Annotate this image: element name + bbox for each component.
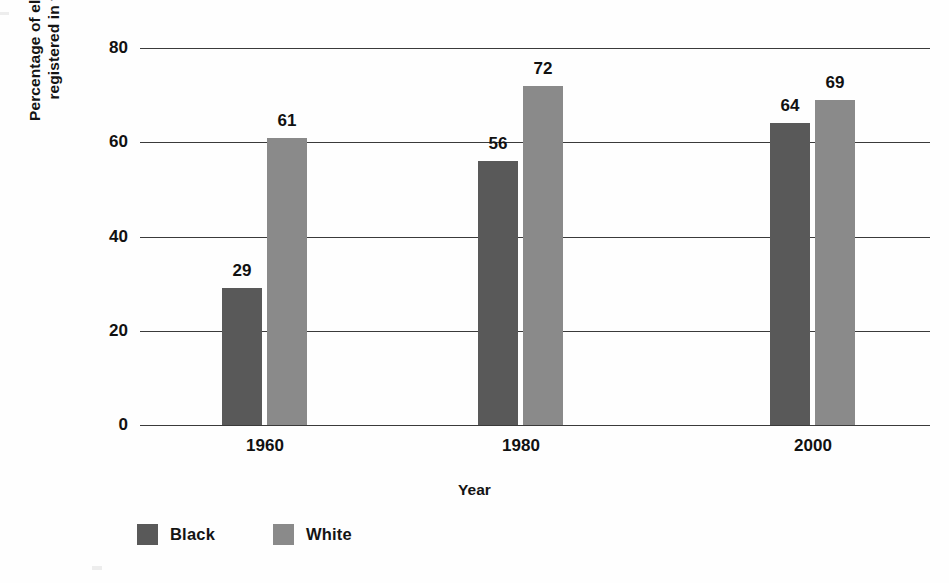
legend-label-black: Black	[170, 525, 215, 544]
scan-artifact	[0, 12, 9, 15]
y-tick-60: 60	[84, 132, 128, 152]
bar-value-label: 69	[826, 73, 845, 93]
x-tick-1960: 1960	[246, 436, 284, 456]
x-axis-title: Year	[0, 481, 949, 499]
bar-white-2000[interactable]: 69	[815, 100, 855, 425]
y-tick-0: 0	[84, 415, 128, 435]
bar-value-label: 29	[233, 261, 252, 281]
bar-black-2000[interactable]: 64	[770, 123, 810, 425]
bar-white-1960[interactable]: 61	[267, 138, 307, 425]
bar-value-label: 56	[489, 134, 508, 154]
legend-swatch-black-icon	[137, 524, 158, 545]
y-axis-title-line-1: Percentage of eligible voters	[26, 0, 45, 121]
legend-item-white[interactable]: White	[273, 524, 352, 545]
legend-swatch-white-icon	[273, 524, 294, 545]
gridline-80	[140, 48, 930, 49]
plot-area: 29 61 56 72 64 69	[140, 48, 930, 425]
y-tick-40: 40	[84, 227, 128, 247]
bar-black-1960[interactable]: 29	[222, 288, 262, 425]
y-axis-title-line-2: registered in the South	[45, 0, 64, 100]
x-tick-2000: 2000	[794, 436, 832, 456]
bar-white-1980[interactable]: 72	[523, 86, 563, 425]
x-tick-1980: 1980	[502, 436, 540, 456]
bar-value-label: 72	[534, 59, 553, 79]
legend: Black White	[137, 524, 352, 545]
bar-value-label: 64	[781, 96, 800, 116]
x-axis-baseline	[140, 425, 930, 426]
bar-chart: Percentage of eligible voters registered…	[0, 0, 949, 583]
bar-black-1980[interactable]: 56	[478, 161, 518, 425]
y-tick-80: 80	[84, 38, 128, 58]
y-tick-20: 20	[84, 321, 128, 341]
legend-label-white: White	[306, 525, 352, 544]
bar-value-label: 61	[278, 111, 297, 131]
y-axis-title: Percentage of eligible voters registered…	[22, 0, 68, 164]
legend-item-black[interactable]: Black	[137, 524, 215, 545]
